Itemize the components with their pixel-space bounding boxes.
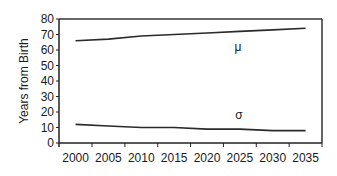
x-tick-label: 2035: [292, 151, 319, 165]
x-tick-label: 2030: [259, 151, 286, 165]
y-axis: 01020304050607080: [41, 12, 59, 150]
y-tick-label: 30: [41, 90, 55, 104]
sigma-series-label: σ: [235, 108, 243, 122]
sigma-line: [76, 124, 306, 130]
x-axis: 20002005201020152020202520302035: [59, 143, 322, 165]
y-tick-label: 0: [47, 136, 54, 150]
mu-line: [76, 28, 306, 40]
x-tick-label: 2010: [128, 151, 155, 165]
x-tick-label: 2020: [194, 151, 221, 165]
mu-series-label: μ: [235, 40, 242, 54]
y-tick-label: 50: [41, 59, 55, 73]
x-tick-label: 2025: [227, 151, 254, 165]
x-tick-label: 2000: [62, 151, 89, 165]
line-chart: 01020304050607080 2000200520102015202020…: [0, 0, 337, 176]
y-tick-label: 70: [41, 28, 55, 42]
y-tick-label: 60: [41, 43, 55, 57]
series-lines: [76, 28, 306, 130]
x-tick-label: 2005: [95, 151, 122, 165]
y-tick-label: 80: [41, 12, 55, 26]
y-axis-label: Years from Birth: [17, 38, 31, 124]
plot-frame: [59, 19, 322, 143]
y-tick-label: 40: [41, 74, 55, 88]
x-tick-label: 2015: [161, 151, 188, 165]
y-tick-label: 20: [41, 105, 55, 119]
y-tick-label: 10: [41, 121, 55, 135]
